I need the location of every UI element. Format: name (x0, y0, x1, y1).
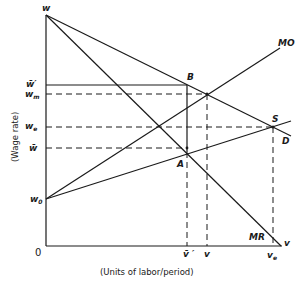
monopsony-diagram: w w̄′ wm we w̄ w0 0 (Wage rate) v̄ ′ v v… (0, 0, 299, 282)
label-v-end: v (284, 238, 291, 248)
label-v-prime: v̄ ′ (183, 249, 195, 259)
label-mo: MO (278, 38, 295, 48)
x-axis-title: (Units of labor/period) (100, 267, 194, 277)
point-s (271, 125, 274, 128)
label-w-m: wm (25, 89, 40, 100)
label-w-e: we (25, 121, 37, 132)
label-d: D (282, 136, 290, 146)
label-w-bar-prime: w̄′ (26, 79, 37, 89)
label-v-e: ve (267, 250, 277, 261)
point-a (186, 147, 189, 150)
demand-line-d (46, 15, 291, 136)
label-v: v (204, 249, 211, 259)
marginal-revenue-line (46, 15, 281, 246)
marginal-outlay-line-mo (46, 48, 280, 199)
label-b: B (187, 72, 194, 82)
origin-label: 0 (35, 247, 41, 258)
label-w-bar: w̄ (29, 143, 38, 153)
label-w-0: w0 (30, 194, 43, 205)
y-axis-title: (Wage rate) (10, 112, 20, 162)
point-mo-d (205, 92, 208, 95)
label-mr: MR (249, 232, 265, 242)
label-s: S (272, 114, 278, 124)
label-a: A (176, 159, 184, 169)
supply-line (46, 121, 291, 199)
label-w: w (42, 3, 51, 13)
